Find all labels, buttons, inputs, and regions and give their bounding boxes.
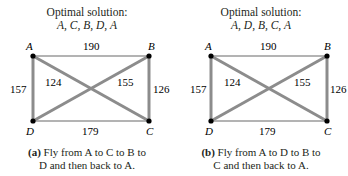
node-label-b: B [324,40,331,52]
diagram-a-caption: (a) Fly from A to C to B to D and then b… [0,146,174,172]
node-d [30,118,35,123]
node-a [30,53,35,58]
weight-bc: 126 [330,83,347,95]
caption-line2: C and then back to A. [213,159,308,171]
node-b [324,53,329,58]
weight-ab: 190 [83,40,100,52]
node-c [324,118,329,123]
node-label-b: B [148,40,155,52]
caption-tag: (b) [201,146,214,158]
weight-dc: 179 [259,125,276,137]
node-a [208,53,213,58]
weight-ad: 157 [190,83,207,95]
weight-bc: 126 [153,83,170,95]
caption-line1: Fly from A to C to B to [44,146,146,158]
weight-ad: 157 [10,83,27,95]
node-b [146,53,151,58]
node-label-c: C [146,125,154,137]
weight-bd: 155 [117,76,134,88]
diagram-b: Optimal solution: A, D, B, C, A A B C D … [174,0,348,176]
diagram-b-caption: (b) Fly from A to D to B to C and then b… [174,146,348,172]
node-label-d: D [25,125,34,137]
diagram-a: Optimal solution: A, C, B, D, A A B C [0,0,174,176]
weight-ac: 124 [45,76,62,88]
weight-bd: 155 [294,76,311,88]
caption-tag: (a) [28,146,41,158]
node-c [146,118,151,123]
node-label-a: A [204,40,212,52]
node-label-c: C [324,125,332,137]
node-d [208,118,213,123]
node-label-d: D [204,125,213,137]
weight-ab: 190 [260,40,277,52]
caption-line1: Fly from A to D to B to [218,146,321,158]
weight-dc: 179 [82,125,99,137]
node-label-a: A [25,40,33,52]
weight-ac: 124 [224,76,241,88]
caption-line2: D and then back to A. [39,159,135,171]
